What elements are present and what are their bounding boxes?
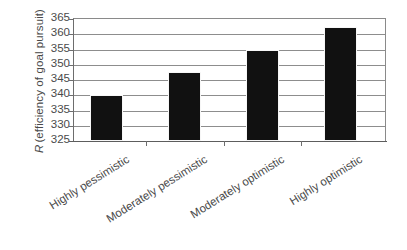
x-axis-baseline [69, 141, 387, 142]
bar[interactable] [90, 95, 123, 141]
x-axis-category-label: Highly pessimistic [0, 153, 131, 250]
y-axis-tick-mark [69, 34, 74, 35]
bar[interactable] [168, 72, 201, 141]
y-axis-tick-mark [69, 95, 74, 96]
plot-area [73, 18, 386, 141]
y-axis-tick-label: 365 [40, 11, 70, 24]
y-axis-tick-label: 330 [40, 118, 70, 131]
y-axis-tick-label: 360 [40, 26, 70, 39]
y-axis-tick-label: 350 [40, 57, 70, 70]
bar[interactable] [324, 27, 357, 141]
y-axis-tick-mark [69, 19, 74, 20]
y-axis-tick-mark [69, 126, 74, 127]
y-axis-tick-mark [69, 50, 74, 51]
y-axis-tick-label: 345 [40, 72, 70, 85]
y-axis-tick-label: 340 [40, 87, 70, 100]
y-axis-tick-mark [69, 111, 74, 112]
y-axis-tick-label: 325 [40, 133, 70, 146]
bar[interactable] [246, 50, 279, 141]
x-axis-tick-mark [301, 141, 302, 146]
y-axis-tick-label: 355 [40, 42, 70, 55]
y-axis-tick-label: 335 [40, 103, 70, 116]
y-axis-tick-mark [69, 65, 74, 66]
x-axis-tick-mark [146, 141, 147, 146]
y-axis-tick-labels: 325330335340345350355360365 [40, 11, 70, 147]
bar-chart-figure: R(efficiency of goal pursuit) 3253303353… [0, 0, 407, 250]
x-axis-tick-mark [224, 141, 225, 146]
y-axis-tick-mark [69, 80, 74, 81]
